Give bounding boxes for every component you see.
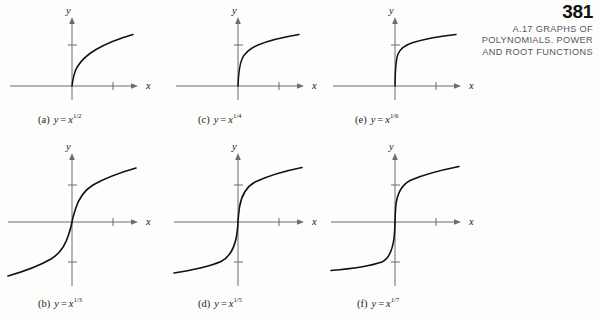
graph-panel-c: x y <box>168 2 333 107</box>
caption-e: (e)y=x1/6 <box>355 112 398 125</box>
caption-d: (d)y=x1/5 <box>198 296 242 309</box>
curve-x-pow-1-4 <box>238 35 299 87</box>
x-axis-arrowhead <box>297 83 304 89</box>
x-axis-arrowhead <box>131 83 138 89</box>
y-axis-arrowhead <box>235 17 241 24</box>
x-axis-label: x <box>145 80 151 91</box>
graph-c-axes <box>176 20 299 100</box>
caption-e-eq: = <box>375 114 385 125</box>
graph-d-axes <box>174 156 299 286</box>
x-axis-label: x <box>468 216 474 227</box>
x-axis-arrowhead <box>131 219 138 225</box>
y-axis-arrowhead <box>392 153 398 160</box>
caption-a-eq: = <box>58 114 68 125</box>
caption-d-label: (d) <box>198 298 210 309</box>
graph-panel-d: x y <box>168 140 338 290</box>
curve-x-pow-1-6 <box>395 35 456 87</box>
caption-f-y: y <box>368 298 377 309</box>
graph-panel-a: x y <box>2 2 167 107</box>
y-axis-label: y <box>231 141 237 152</box>
x-axis-label: x <box>311 80 317 91</box>
graph-b-svg: x y <box>2 140 172 290</box>
caption-c-eq: = <box>218 114 228 125</box>
y-axis-arrowhead <box>69 17 75 24</box>
y-axis-label: y <box>388 141 394 152</box>
caption-d-y: y <box>210 298 219 309</box>
caption-d-exponent: 1/5 <box>234 296 242 303</box>
caption-f-eq: = <box>376 298 386 309</box>
graph-panel-e: x y <box>325 2 490 107</box>
y-axis-arrowhead <box>69 153 75 160</box>
caption-f-label: (f) <box>357 298 368 309</box>
x-axis-label: x <box>468 80 474 91</box>
caption-b-label: (b) <box>38 298 50 309</box>
graph-f-svg: x y <box>325 140 495 290</box>
caption-c-exponent: 1/4 <box>233 112 241 119</box>
x-axis-arrowhead <box>454 219 461 225</box>
graph-e-svg: x y <box>325 2 490 107</box>
caption-b-exponent: 1/3 <box>74 296 82 303</box>
y-axis-arrowhead <box>235 153 241 160</box>
y-axis-label: y <box>65 141 71 152</box>
caption-f: (f)y=x1/7 <box>357 296 399 309</box>
graph-e-axes <box>333 20 456 100</box>
x-axis-arrowhead <box>454 83 461 89</box>
caption-c: (c)y=x1/4 <box>198 112 241 125</box>
figure-page: 381 A.17 GRAPHS OF POLYNOMIALS. POWER AN… <box>0 0 601 319</box>
caption-a-exponent: 1/2 <box>73 112 81 119</box>
caption-f-exponent: 1/7 <box>391 296 399 303</box>
graph-f-axes <box>331 156 456 286</box>
curve-x-pow-1-2 <box>72 35 133 87</box>
y-axis-label: y <box>388 5 394 16</box>
graph-panel-f: x y <box>325 140 495 290</box>
caption-b-y: y <box>50 298 59 309</box>
caption-d-eq: = <box>219 298 229 309</box>
x-axis-label: x <box>145 216 151 227</box>
caption-a: (a)y=x1/2 <box>38 112 81 125</box>
caption-c-label: (c) <box>198 114 210 125</box>
y-axis-arrowhead <box>392 17 398 24</box>
x-axis-arrowhead <box>297 219 304 225</box>
graph-c-svg: x y <box>168 2 333 107</box>
caption-a-label: (a) <box>38 114 50 125</box>
graph-a-svg: x y <box>2 2 167 107</box>
caption-b-eq: = <box>59 298 69 309</box>
caption-e-label: (e) <box>355 114 367 125</box>
graph-d-svg: x y <box>168 140 338 290</box>
graph-a-axes <box>10 20 133 100</box>
y-axis-label: y <box>231 5 237 16</box>
y-axis-label: y <box>65 5 71 16</box>
caption-b: (b)y=x1/3 <box>38 296 82 309</box>
x-axis-label: x <box>311 216 317 227</box>
caption-e-exponent: 1/6 <box>390 112 398 119</box>
graph-panel-b: x y <box>2 140 172 290</box>
